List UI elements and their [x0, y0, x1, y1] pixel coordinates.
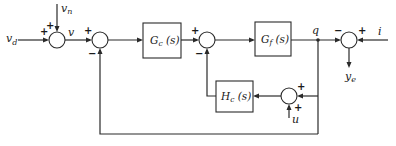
- arrow-icon: [137, 38, 143, 43]
- arrow-icon: [297, 94, 303, 99]
- arrow-icon: [249, 38, 255, 43]
- arrow-icon: [98, 48, 103, 54]
- sign-sum2-bottom: −: [88, 48, 96, 59]
- arrow-icon: [43, 38, 49, 43]
- arrow-icon: [287, 104, 292, 110]
- label-q: q: [312, 24, 319, 37]
- summing-junction-1: [49, 32, 65, 48]
- arrow-icon: [55, 26, 60, 32]
- summing-junction-2: [92, 32, 108, 48]
- block-gf-label: Gf (s): [261, 33, 289, 47]
- label-i: i: [378, 25, 382, 38]
- label-v: v: [68, 26, 75, 39]
- label-vn: vn: [61, 2, 72, 16]
- sign-sum3-left: +: [191, 25, 199, 36]
- hc-to-sum3-line: [207, 50, 216, 96]
- sign-sum4-left: −: [334, 25, 342, 36]
- sign-sum4-right: +: [358, 25, 366, 36]
- sign-sum5-bottom: +: [294, 102, 302, 113]
- sign-sum1-top: +: [46, 20, 54, 31]
- summing-junction-4: [341, 32, 357, 48]
- arrow-icon: [205, 48, 210, 54]
- arrow-icon: [335, 38, 341, 43]
- label-vd: vd: [6, 32, 17, 47]
- arrow-icon: [86, 38, 92, 43]
- arrow-icon: [193, 38, 199, 43]
- arrow-icon: [357, 38, 363, 43]
- sign-sum3-bottom: −: [195, 48, 203, 59]
- block-diagram: Gc (s) Gf (s) Hc (s) vd vn v q i ye u + …: [0, 0, 396, 146]
- arrow-icon: [253, 94, 259, 99]
- summing-junction-3: [199, 32, 215, 48]
- block-gc-label: Gc (s): [150, 34, 180, 48]
- sign-sum5-right: +: [297, 81, 305, 92]
- label-ye: ye: [344, 70, 356, 84]
- sign-sum2-left: +: [84, 25, 92, 36]
- block-hc-label: Hc (s): [220, 90, 251, 104]
- arrow-icon: [347, 62, 352, 68]
- label-u: u: [292, 113, 299, 126]
